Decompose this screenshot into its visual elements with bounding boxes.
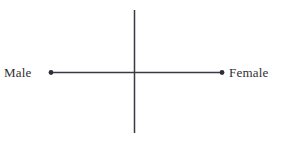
diagram-canvas: Male Female (0, 0, 281, 141)
right-endpoint-dot-icon (220, 70, 225, 75)
axis-label-left: Male (4, 66, 32, 79)
left-endpoint-dot-icon (49, 70, 54, 75)
axis-label-right: Female (229, 66, 268, 79)
